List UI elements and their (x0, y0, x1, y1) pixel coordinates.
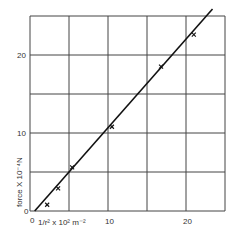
x-tick-10: 10 (105, 217, 114, 226)
y-tick-0: 0 (24, 207, 29, 216)
x-tick-20: 20 (183, 217, 192, 226)
y-tick-20: 20 (17, 51, 26, 60)
x-axis-label: 1/r² x 10² m⁻² (38, 218, 86, 227)
data-points (45, 33, 196, 207)
grid (30, 16, 225, 211)
x-marker-icon (56, 186, 60, 190)
y-tick-10: 10 (17, 129, 26, 138)
x-marker-icon (110, 125, 114, 129)
y-axis-label: force X 10⁻⁴N (15, 157, 24, 207)
x-tick-0: 0 (30, 216, 35, 225)
x-marker-icon (192, 33, 196, 37)
x-marker-icon (45, 203, 49, 207)
chart: 20 10 0 0 10 20 1/r² x 10² m⁻² force X 1… (0, 0, 240, 239)
